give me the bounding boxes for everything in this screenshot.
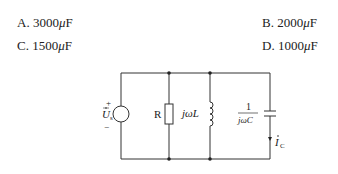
capacitor-label-denominator: jωC — [237, 115, 254, 125]
resistor-label: R — [154, 108, 162, 120]
circuit-diagram: + U s − R jωL 1 jωC I C — [0, 0, 338, 174]
capacitor-label-numerator: 1 — [246, 101, 251, 112]
svg-text:s: s — [110, 114, 113, 122]
source-minus-label: − — [104, 122, 109, 132]
inductor-icon — [210, 102, 213, 126]
resistor-icon — [165, 104, 173, 124]
voltage-source-icon — [113, 106, 129, 122]
current-arrow-icon — [268, 137, 272, 141]
inductor-label: jωL — [180, 107, 199, 119]
source-plus-label: + — [106, 98, 111, 108]
svg-text:C: C — [280, 142, 285, 150]
